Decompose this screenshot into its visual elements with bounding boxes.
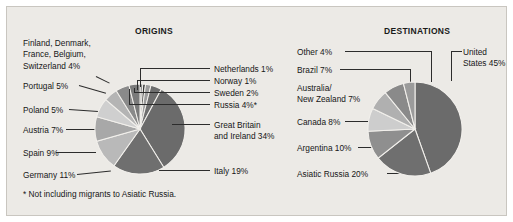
destinations-leader-brazil [340,69,410,70]
origins-label-nordic-line1: Finland, Denmark, [23,38,123,49]
origins-label-spain: Spain 9% [23,148,59,159]
destinations-pie-chart [367,81,463,177]
destinations-pie-svg [367,81,463,177]
destinations-label-canada: Canada 8% [297,117,340,128]
origins-label-nordic-line2: France, Belgium, [23,49,123,60]
origins-label-russia: Russia 4%* [214,100,257,111]
origins-label-austria: Austria 7% [23,125,63,136]
destinations-leader-united-states-stem [451,51,452,81]
origins-label-germany: Germany 11% [23,170,75,181]
origins-leader-sweden-stem [134,88,135,93]
destinations-leader-other-stem [431,51,432,82]
destinations-label-argentina: Argentina 10% [297,143,351,154]
origins-leader-russia-stem [129,89,130,105]
origins-chart-title: ORIGINS [135,26,173,36]
destinations-chart-title: DESTINATIONS [384,26,450,36]
origins-leader-russia [129,104,210,105]
destinations-leader-united-states [451,51,462,52]
destinations-label-other: Other 4% [297,47,332,58]
destinations-label-united-states: United States 45% [463,47,511,70]
origins-leader-spain [56,152,96,153]
origins-leader-netherlands-stem [140,68,141,87]
destinations-leader-other [345,51,431,52]
origins-chart-panel: ORIGINS Finland, Denmark, France, Belgiu… [7,7,263,215]
origins-leader-italy [159,170,210,171]
origins-leader-sweden [134,92,210,93]
origins-leader-norway-stem [137,80,138,90]
origins-label-sweden: Sweden 2% [214,88,258,99]
origins-leader-great-britain [172,124,210,125]
origins-label-portugal: Portugal 5% [23,81,68,92]
origins-pie-chart [94,83,186,175]
origins-leader-netherlands [140,68,210,69]
destinations-label-asiatic-russia: Asiatic Russia 20% [297,169,368,180]
destinations-chart-panel: DESTINATIONS Other 4% Brazil 7% Australi… [263,7,508,215]
origins-label-norway: Norway 1% [214,76,256,87]
destinations-label-brazil: Brazil 7% [297,65,332,76]
destinations-label-us-line2: States 45% [463,58,511,69]
origins-label-poland: Poland 5% [23,105,63,116]
destinations-label-us-line1: United [463,47,511,58]
origins-label-nordic-line3: Switzerland 4% [23,61,123,72]
origins-label-italy: Italy 19% [214,166,248,177]
origins-leader-norway [137,80,210,81]
origins-footnote: * Not including migrants to Asiatic Russ… [23,189,176,199]
origins-label-nordic-group: Finland, Denmark, France, Belgium, Switz… [23,38,123,72]
figure-panel: ORIGINS Finland, Denmark, France, Belgiu… [6,6,507,216]
origins-pie-svg [94,83,186,175]
